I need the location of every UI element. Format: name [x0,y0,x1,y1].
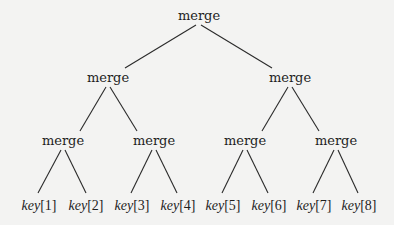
leaf-key-name: key [206,198,225,213]
leaf-key-name: key [161,198,180,213]
edge-l2a-key1 [38,150,61,193]
edge-l2c-key6 [247,150,268,193]
edge-l1a-l2a [80,87,106,131]
edge-l2b-key4 [156,150,177,193]
edge-l2b-key3 [131,150,152,193]
leaf-key-name: key [22,198,41,213]
leaf-key-name: key [252,198,271,213]
edge-l2d-key8 [338,150,358,193]
merge-node-root: merge [178,9,220,22]
leaf-key-name: key [69,198,88,213]
leaf-key-index: [4] [179,198,195,213]
merge-node-l2-3: merge [224,134,266,147]
leaf-key-index: [7] [315,198,331,213]
leaf-key-index: [3] [133,198,149,213]
leaf-key-index: [6] [270,198,286,213]
leaf-key-1: key[1] [22,199,57,213]
leaf-key-6: key[6] [252,199,287,213]
edge-l2d-key7 [313,150,334,193]
leaf-key-3: key[3] [115,199,150,213]
leaf-key-index: [8] [360,198,376,213]
edge-root-l1-right [201,25,272,68]
leaf-key-index: [2] [87,198,103,213]
merge-node-l2-4: merge [315,134,357,147]
leaf-key-8: key[8] [342,199,377,213]
leaf-key-5: key[5] [206,199,241,213]
leaf-key-name: key [297,198,316,213]
leaf-key-index: [1] [40,198,56,213]
leaf-key-index: [5] [224,198,240,213]
merge-node-l2-1: merge [42,134,84,147]
leaf-key-2: key[2] [69,199,104,213]
edge-l1a-l2b [110,87,137,131]
leaf-key-name: key [342,198,361,213]
edge-root-l1-left [125,25,196,68]
leaf-key-4: key[4] [161,199,196,213]
merge-node-l1-left: merge [87,71,129,84]
tree-edges [0,0,394,225]
leaf-key-name: key [115,198,134,213]
edge-l2c-key5 [222,150,243,193]
edge-l1b-l2d [292,87,319,131]
merge-node-l2-2: merge [133,134,175,147]
edge-l1b-l2c [262,87,288,131]
edge-l2a-key2 [65,150,86,193]
merge-node-l1-right: merge [269,71,311,84]
leaf-key-7: key[7] [297,199,332,213]
